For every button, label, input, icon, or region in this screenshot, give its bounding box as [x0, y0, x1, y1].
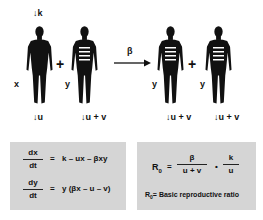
fraction-bar [223, 164, 239, 165]
dy-dt-fraction: dy dt [23, 179, 43, 200]
r0-symbol: R0 [152, 163, 162, 174]
denominator: u + v [177, 167, 207, 175]
infected-human-icon [71, 25, 98, 105]
plus-sign: + [188, 57, 196, 71]
outflow-label-y: ↓u + v [81, 113, 106, 122]
infected-human-icon [205, 25, 232, 105]
susceptible-human-icon [26, 25, 53, 105]
transmission-arrow-icon [113, 58, 153, 68]
inflow-k-label: ↓k [33, 9, 43, 18]
outflow-label-x: ↓u [33, 113, 43, 122]
differential-equations-box: dx dt = k – ux – βxy dy dt = y (βx – u –… [10, 142, 126, 210]
numerator: β [177, 154, 207, 162]
figure-label-y: y [200, 80, 205, 89]
numerator: k [223, 154, 239, 162]
fraction-bar [177, 164, 207, 165]
equals-sign: = [50, 155, 55, 163]
beta-over-u-plus-v-fraction: β u + v [177, 154, 207, 175]
k-over-u-fraction: k u [223, 154, 239, 175]
numerator: dx [23, 149, 43, 157]
r0-formula-box: R0 = β u + v • k u R0= Basic reproductiv… [137, 142, 256, 210]
fraction-bar [23, 189, 43, 190]
r0-definition: R0= Basic reproductive ratio [145, 191, 239, 200]
fraction-bar [23, 159, 43, 160]
dx-dt-rhs: k – ux – βxy [62, 155, 107, 163]
equals-sign: = [167, 163, 172, 171]
figure-label-y: y [65, 80, 70, 89]
denominator: dt [23, 192, 43, 200]
figure-label-x: x [14, 80, 19, 89]
multiply-dot: • [215, 163, 218, 171]
outflow-label-y: ↓u + v [214, 113, 239, 122]
dy-dt-rhs: y (βx – u – v) [62, 185, 110, 193]
outflow-label-y: ↓u + v [166, 113, 191, 122]
equals-sign: = [50, 185, 55, 193]
figure-label-y: y [152, 80, 157, 89]
transmission-rate-label: β [127, 47, 133, 56]
denominator: dt [23, 162, 43, 170]
dx-dt-fraction: dx dt [23, 149, 43, 170]
infected-human-icon [157, 25, 184, 105]
denominator: u [223, 167, 239, 175]
plus-sign: + [56, 57, 64, 71]
numerator: dy [23, 179, 43, 187]
